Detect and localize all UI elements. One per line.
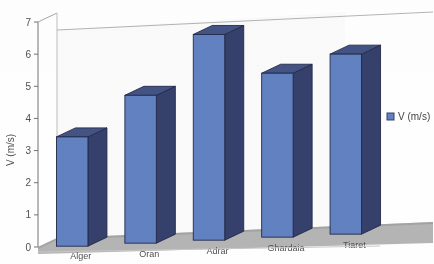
x-category-label: Alger — [70, 251, 91, 261]
y-tick-label: 7 — [25, 17, 31, 28]
y-tick-label: 0 — [25, 242, 31, 253]
x-category-label: Adrar — [207, 246, 229, 256]
bar-front-face — [193, 34, 224, 240]
x-category-label: Tiaret — [343, 240, 366, 250]
legend-swatch-v — [387, 113, 394, 120]
y-tick-label: 4 — [25, 113, 31, 124]
chart-canvas: 01234567 AlgerOranAdrarGhardaiaTiaret V … — [0, 0, 434, 264]
y-axis-title: V (m/s) — [5, 134, 16, 166]
bar-front-face — [262, 73, 293, 237]
bar — [330, 45, 380, 234]
bar-front-face — [330, 54, 361, 234]
y-tick-label: 3 — [25, 145, 31, 156]
bar-side-face — [362, 45, 381, 234]
y-tick-label: 1 — [25, 209, 31, 220]
bar-side-face — [88, 128, 107, 246]
bar-side-face — [293, 64, 312, 237]
bar-chart: 01234567 AlgerOranAdrarGhardaiaTiaret V … — [0, 0, 434, 264]
bar — [262, 64, 312, 237]
y-axis-depth-edge — [38, 13, 57, 22]
bar — [193, 25, 243, 240]
y-tick-label: 6 — [25, 49, 31, 60]
y-tick-group: 01234567 — [25, 17, 38, 253]
y-tick-label: 5 — [25, 81, 31, 92]
bar-side-face — [225, 25, 244, 240]
bar-side-face — [156, 86, 175, 243]
bar — [56, 128, 106, 246]
bar — [125, 86, 175, 243]
legend: V (m/s) — [387, 111, 430, 122]
bar-front-face — [125, 95, 156, 243]
y-axis — [38, 13, 57, 247]
y-tick-label: 2 — [25, 177, 31, 188]
legend-label-v: V (m/s) — [398, 111, 430, 122]
bar-front-face — [56, 137, 87, 246]
